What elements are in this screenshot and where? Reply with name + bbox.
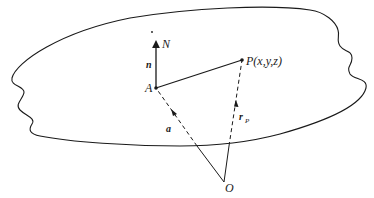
vector-rp-solid xyxy=(224,146,229,182)
label-r-subscript: P xyxy=(244,117,250,125)
point-A xyxy=(154,86,158,90)
vector-a-arrowhead xyxy=(171,109,177,116)
label-N: N xyxy=(161,37,171,51)
label-O: O xyxy=(225,181,234,195)
point-P xyxy=(240,58,244,62)
label-P: P(x,y,z) xyxy=(245,54,282,68)
label-a: a xyxy=(166,123,171,134)
segment-AP xyxy=(156,60,242,88)
dot-above-n xyxy=(151,31,153,33)
label-A: A xyxy=(144,81,153,95)
vector-a-dashed xyxy=(156,88,197,146)
label-n: n xyxy=(146,59,152,70)
vector-rp-arrowhead xyxy=(234,100,239,107)
label-r: r xyxy=(239,111,243,122)
diagram-canvas: N n A P(x,y,z) a r P O xyxy=(0,0,374,198)
vector-a-solid xyxy=(197,146,224,182)
